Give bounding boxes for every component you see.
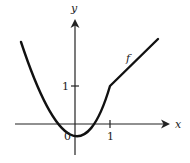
- origin-label: 0: [64, 130, 71, 143]
- curve-label-f: f: [125, 52, 132, 65]
- x-axis-label: x: [175, 118, 182, 131]
- x-tick-1-label: 1: [107, 130, 114, 143]
- y-tick-1-label: 1: [62, 80, 69, 93]
- curve-f: [21, 39, 158, 136]
- y-axis-label: y: [70, 2, 78, 15]
- function-graph: y x 0 1 1 f: [0, 0, 190, 163]
